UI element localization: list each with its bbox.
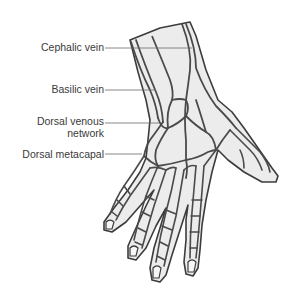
label-cephalic-vein: Cephalic vein	[41, 41, 104, 53]
label-dorsal-venous-network-line1: Dorsal venous	[4, 115, 104, 127]
label-dorsal-venous-network-line2: network	[4, 127, 104, 139]
label-basilic-vein: Basilic vein	[51, 83, 104, 95]
label-dorsal-venous-network: Dorsal venous network	[4, 115, 104, 139]
hand-vein-diagram: Cephalic vein Basilic vein Dorsal venous…	[0, 0, 293, 290]
label-dorsal-metacarpal: Dorsal metacapal	[22, 148, 104, 160]
